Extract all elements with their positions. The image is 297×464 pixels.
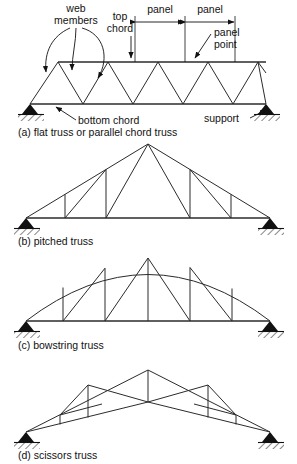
panel-point-leader bbox=[195, 34, 211, 58]
pitched-left-rafter bbox=[26, 144, 148, 218]
diagram-scissors-truss: (d) scissors truss bbox=[14, 370, 284, 461]
scissors-right-bottom-chord bbox=[148, 402, 270, 432]
scissors-strut-left bbox=[60, 385, 88, 415]
label-panel-right: panel bbox=[197, 3, 223, 15]
truss-types-figure: web members top chord panel panel panel … bbox=[0, 0, 297, 464]
scissors-diagonal-right bbox=[148, 385, 208, 402]
web-members-leader-1 bbox=[46, 28, 70, 72]
bowstring-diagonal-1 bbox=[63, 268, 105, 321]
scissors-left-rafter bbox=[26, 370, 148, 432]
pitched-diagonal-3 bbox=[148, 144, 190, 218]
bowstring-left-support bbox=[14, 321, 40, 338]
label-top-chord-line1: top bbox=[113, 10, 128, 22]
diagram-pitched-truss: (b) pitched truss bbox=[14, 144, 284, 247]
pitched-diagonal-2 bbox=[106, 144, 148, 218]
scissors-diagonal-left bbox=[88, 385, 148, 402]
flat-web-members bbox=[30, 62, 266, 104]
label-panel-left: panel bbox=[147, 3, 173, 15]
bowstring-diagonal-2 bbox=[105, 258, 148, 321]
scissors-left-support bbox=[14, 432, 40, 449]
scissors-tie-right bbox=[194, 404, 236, 415]
label-top-chord-line2: chord bbox=[107, 22, 133, 34]
scissors-right-rafter bbox=[148, 370, 270, 432]
scissors-tie-left bbox=[60, 404, 102, 415]
flat-left-support bbox=[18, 104, 44, 121]
label-bottom-chord: bottom chord bbox=[78, 114, 139, 126]
pitched-diagonal-4 bbox=[190, 170, 231, 219]
caption-pitched-truss: (b) pitched truss bbox=[18, 235, 93, 247]
bowstring-diagonal-3 bbox=[148, 258, 190, 321]
label-web-members-line2: members bbox=[54, 14, 98, 26]
web-members-leader-3 bbox=[82, 28, 104, 78]
diagram-flat-truss: web members top chord panel panel panel … bbox=[18, 2, 280, 138]
scissors-strut-right bbox=[208, 385, 236, 415]
scissors-left-bottom-chord bbox=[26, 402, 148, 432]
bowstring-right-support bbox=[258, 321, 284, 338]
label-panel-point-line2: point bbox=[214, 38, 237, 50]
scissors-right-support bbox=[258, 432, 284, 449]
caption-flat-truss: (a) flat truss or parallel chord truss bbox=[18, 126, 177, 138]
diagram-bowstring-truss: (c) bowstring truss bbox=[14, 258, 284, 351]
label-support: support bbox=[204, 112, 239, 124]
label-web-members-line1: web bbox=[65, 2, 85, 14]
web-members-leader-2 bbox=[72, 28, 76, 70]
pitched-right-rafter bbox=[148, 144, 270, 218]
pitched-left-support bbox=[14, 218, 40, 235]
flat-right-support bbox=[254, 104, 280, 121]
bowstring-diagonal-4 bbox=[190, 268, 232, 322]
pitched-diagonal-1 bbox=[65, 170, 106, 219]
pitched-right-support bbox=[258, 218, 284, 235]
caption-bowstring-truss: (c) bowstring truss bbox=[18, 339, 104, 351]
label-panel-point-line1: panel bbox=[214, 26, 240, 38]
bottom-chord-leader bbox=[56, 107, 76, 120]
caption-scissors-truss: (d) scissors truss bbox=[18, 449, 97, 461]
